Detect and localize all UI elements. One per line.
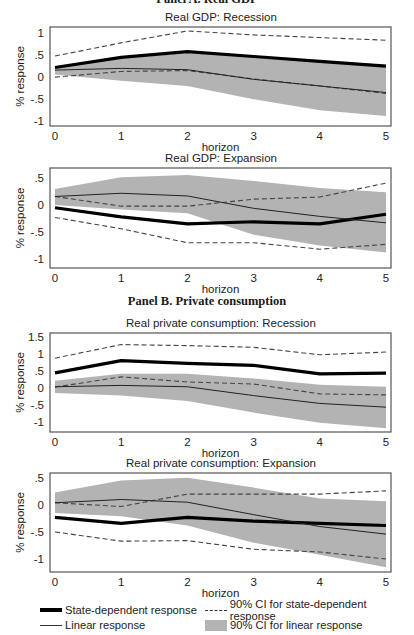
x-tick-label: 5 bbox=[383, 576, 389, 588]
x-tick-label: 2 bbox=[184, 272, 190, 284]
y-tick-label: 0 bbox=[38, 382, 44, 394]
y-tick-label: -1 bbox=[34, 416, 44, 428]
x-tick-label: 4 bbox=[317, 576, 324, 588]
chart-gdp-recession: 1.50-.5-1012345horizon% response bbox=[0, 20, 414, 170]
legend-item-linear: Linear response bbox=[40, 618, 145, 632]
y-tick-label: .5 bbox=[34, 172, 44, 184]
x-tick-label: 1 bbox=[118, 576, 124, 588]
x-tick-label: 5 bbox=[383, 436, 389, 448]
chart-consumption-expansion: .50-.5-1012345horizon% response bbox=[0, 466, 414, 616]
state-dependent-line bbox=[55, 361, 386, 374]
x-tick-label: 0 bbox=[52, 436, 58, 448]
ci-dashed-line bbox=[55, 345, 386, 359]
y-tick-label: 0 bbox=[38, 199, 44, 211]
y-tick-label: 0 bbox=[38, 71, 44, 83]
x-tick-label: 2 bbox=[184, 576, 190, 588]
x-tick-label: 0 bbox=[52, 130, 58, 142]
x-tick-label: 5 bbox=[383, 130, 389, 142]
y-tick-label: .5 bbox=[34, 365, 44, 377]
y-axis-label: % response bbox=[14, 352, 26, 413]
x-tick-label: 5 bbox=[383, 272, 389, 284]
x-tick-label: 4 bbox=[317, 130, 324, 142]
y-tick-label: 1 bbox=[38, 348, 44, 360]
legend-item-ci-linear: 90% CI for linear response bbox=[205, 618, 362, 632]
x-axis-label: horizon bbox=[202, 141, 240, 153]
chart-consumption-recession: 1.51.50-.5-1012345horizon% response bbox=[0, 326, 414, 476]
x-tick-label: 3 bbox=[250, 576, 256, 588]
y-tick-label: .5 bbox=[34, 472, 44, 484]
y-axis-label: % response bbox=[14, 492, 26, 553]
ci-band-linear bbox=[55, 374, 386, 428]
y-tick-label: -1 bbox=[34, 553, 44, 565]
x-tick-label: 3 bbox=[250, 436, 256, 448]
legend: State-dependent response Linear response… bbox=[0, 600, 414, 635]
y-axis-label: % response bbox=[14, 188, 26, 249]
x-tick-label: 3 bbox=[250, 130, 256, 142]
panel-title-a: Panel A. Real GDP bbox=[0, 0, 414, 7]
x-tick-label: 0 bbox=[52, 272, 58, 284]
x-tick-label: 1 bbox=[118, 436, 124, 448]
ci-dashed-line bbox=[55, 31, 386, 56]
y-tick-label: -.5 bbox=[31, 226, 44, 238]
x-tick-label: 0 bbox=[52, 576, 58, 588]
x-tick-label: 2 bbox=[184, 130, 190, 142]
x-tick-label: 3 bbox=[250, 272, 256, 284]
y-tick-label: -.5 bbox=[31, 526, 44, 538]
dashed-line-swatch-icon bbox=[205, 610, 227, 611]
y-tick-label: -.5 bbox=[31, 93, 44, 105]
y-tick-label: 1.5 bbox=[28, 331, 44, 343]
x-tick-label: 1 bbox=[118, 130, 124, 142]
x-tick-label: 2 bbox=[184, 436, 190, 448]
y-tick-label: .5 bbox=[34, 49, 44, 61]
x-axis-label: horizon bbox=[202, 283, 240, 295]
x-axis-label: horizon bbox=[202, 447, 240, 459]
x-tick-label: 4 bbox=[317, 272, 324, 284]
y-tick-label: 0 bbox=[38, 499, 44, 511]
y-tick-label: -1 bbox=[34, 253, 44, 265]
x-tick-label: 4 bbox=[317, 436, 324, 448]
y-tick-label: 1 bbox=[38, 27, 44, 39]
y-axis-label: % response bbox=[14, 46, 26, 107]
legend-item-ci-state-dependent: 90% CI for state-dependent response bbox=[205, 603, 414, 617]
thin-line-swatch-icon bbox=[40, 625, 62, 626]
thick-line-swatch-icon bbox=[40, 608, 62, 612]
y-tick-label: -1 bbox=[34, 115, 44, 127]
x-tick-label: 1 bbox=[118, 272, 124, 284]
chart-gdp-expansion: .50-.5-1012345horizon% response bbox=[0, 161, 414, 311]
y-tick-label: -.5 bbox=[31, 399, 44, 411]
gray-box-swatch-icon bbox=[205, 620, 227, 631]
legend-item-state-dependent: State-dependent response bbox=[40, 603, 197, 617]
